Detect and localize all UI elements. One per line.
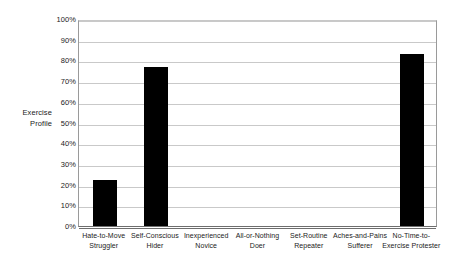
y-axis-tick-labels: 100%90%80%70%60%50%40%30%20%10%0% — [52, 20, 76, 227]
bar-chart: Exercise Profile 100%90%80%70%60%50%40%3… — [0, 0, 463, 270]
bar-slot — [387, 21, 438, 226]
y-axis-title-line-1: Exercise — [2, 108, 52, 119]
y-axis-title-line-2: Profile — [2, 119, 52, 130]
axis-baseline — [79, 228, 436, 229]
plot-area — [78, 20, 437, 227]
y-axis-tick-label: 40% — [52, 140, 76, 148]
x-axis-category-label-line: Exercise Protester — [380, 241, 443, 251]
bar-slot — [130, 21, 181, 226]
y-axis-title: Exercise Profile — [2, 108, 52, 129]
y-axis-tick-label: 0% — [52, 223, 76, 231]
y-axis-tick-label: 60% — [52, 99, 76, 107]
bar-slot — [79, 21, 130, 226]
x-axis-category-label-line: No-Time-to- — [380, 231, 443, 241]
bars-layer — [79, 21, 436, 226]
bar-slot — [284, 21, 335, 226]
y-axis-tick-label: 70% — [52, 78, 76, 86]
bar-slot — [182, 21, 233, 226]
y-axis-tick-label: 30% — [52, 161, 76, 169]
bar[interactable] — [400, 54, 424, 226]
y-axis-tick-label: 50% — [52, 120, 76, 128]
bar-slot — [233, 21, 284, 226]
y-axis-tick-label: 20% — [52, 182, 76, 190]
x-axis-category-labels: Hate-to-MoveStrugglerSelf-ConsciousHider… — [78, 231, 437, 263]
bar[interactable] — [144, 67, 168, 226]
x-axis-category-label: No-Time-to-Exercise Protester — [380, 231, 443, 250]
bar[interactable] — [93, 180, 117, 226]
y-axis-tick-label: 100% — [52, 16, 76, 24]
y-axis-tick-label: 10% — [52, 202, 76, 210]
bar-slot — [335, 21, 386, 226]
y-axis-tick-label: 90% — [52, 37, 76, 45]
y-axis-tick-label: 80% — [52, 57, 76, 65]
